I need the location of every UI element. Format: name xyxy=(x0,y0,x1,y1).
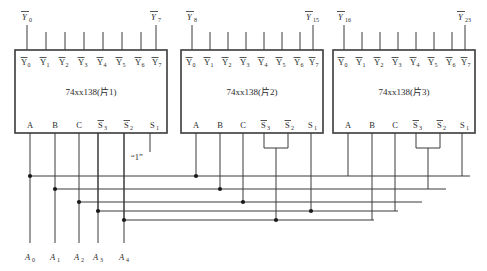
svg-text:3: 3 xyxy=(247,62,250,68)
input-A1-sub: 1 xyxy=(57,257,60,263)
chip3-pin-A: A xyxy=(345,120,352,130)
svg-text:Y: Y xyxy=(446,57,452,67)
svg-text:3: 3 xyxy=(85,62,88,68)
svg-text:5: 5 xyxy=(435,62,438,68)
svg-text:5: 5 xyxy=(123,62,126,68)
input-A0-base: A xyxy=(24,252,31,262)
chip2-pin-C: C xyxy=(240,120,246,130)
chip1-pin-A: A xyxy=(27,120,34,130)
svg-text:4: 4 xyxy=(417,62,420,68)
svg-text:Y: Y xyxy=(410,57,416,67)
svg-text:3: 3 xyxy=(104,125,107,131)
svg-text:Y: Y xyxy=(356,57,362,67)
chip1-top-right-sub: 7 xyxy=(158,17,161,23)
chip3-pin-C: C xyxy=(392,120,398,130)
junction-A2-chip1 xyxy=(77,200,81,204)
svg-text:Y: Y xyxy=(59,57,65,67)
chip3-pin-B: B xyxy=(369,120,375,130)
svg-text:1: 1 xyxy=(47,62,50,68)
svg-text:0: 0 xyxy=(28,62,31,68)
input-label-A1: A1 xyxy=(49,252,60,263)
junction-A2-chip2 xyxy=(241,200,245,204)
svg-text:5: 5 xyxy=(283,62,286,68)
junction-A0-chip2 xyxy=(194,174,198,178)
svg-text:0: 0 xyxy=(345,62,348,68)
svg-text:1: 1 xyxy=(363,62,366,68)
svg-text:2: 2 xyxy=(66,62,69,68)
chip1-pin-C: C xyxy=(76,120,82,130)
chip1-pin-B: B xyxy=(52,120,58,130)
chip3-top-left-text: Y xyxy=(338,12,344,22)
svg-text:2: 2 xyxy=(229,62,232,68)
svg-text:S: S xyxy=(124,120,129,130)
input-A2-sub: 2 xyxy=(81,257,84,263)
junction-A4-chip1 xyxy=(122,218,126,222)
svg-text:Y: Y xyxy=(338,57,344,67)
chip2-top-left-sub: 8 xyxy=(194,17,197,23)
svg-text:Y: Y xyxy=(461,57,467,67)
chip1-top-left-sub: 0 xyxy=(29,17,32,23)
svg-text:S: S xyxy=(261,120,266,130)
svg-text:Y: Y xyxy=(392,57,398,67)
svg-text:3: 3 xyxy=(419,125,422,131)
input-A2-base: A xyxy=(73,252,80,262)
svg-text:4: 4 xyxy=(104,62,107,68)
chip2-top-left-label: Y 8 xyxy=(186,12,197,24)
chip1-top-right-label: Y 7 xyxy=(150,12,161,24)
svg-text:2: 2 xyxy=(291,125,294,131)
svg-text:6: 6 xyxy=(142,62,145,68)
svg-text:S: S xyxy=(98,120,103,130)
svg-text:1: 1 xyxy=(466,125,469,131)
svg-text:Y: Y xyxy=(222,57,228,67)
input-label-A2: A2 xyxy=(73,252,84,263)
svg-text:4: 4 xyxy=(265,62,268,68)
svg-text:S: S xyxy=(150,120,155,130)
svg-text:Y: Y xyxy=(428,57,434,67)
chip3-top-right-text: Y xyxy=(458,12,464,22)
chip2-pin-B: B xyxy=(217,120,223,130)
chip1-top-left-label: Y 0 xyxy=(21,12,32,24)
chip2-top-left-text: Y xyxy=(187,12,193,22)
input-label-A0: A0 xyxy=(24,252,35,263)
svg-text:2: 2 xyxy=(443,125,446,131)
junction-A3-chip2S1 xyxy=(309,209,313,213)
input-stems xyxy=(30,133,124,243)
svg-text:S: S xyxy=(460,120,465,130)
chip3-label: 74xx138(片3) xyxy=(379,86,430,97)
svg-text:Y: Y xyxy=(135,57,141,67)
chip1-top-right-text: Y xyxy=(151,12,157,22)
svg-text:3: 3 xyxy=(267,125,270,131)
svg-text:Y: Y xyxy=(294,57,300,67)
input-A3-sub: 3 xyxy=(100,257,103,263)
svg-text:Y: Y xyxy=(40,57,46,67)
svg-text:S: S xyxy=(437,120,442,130)
chip2-top-right-label: Y 15 xyxy=(305,12,319,24)
address-bus-lines xyxy=(30,176,470,220)
enable-high-label: “1” xyxy=(131,152,143,162)
circuit-diagram: Y 0 Y 7 Y0 Y1 Y2 Y3 Y4 Y5 Y6 Y7 74xx138(… xyxy=(0,0,487,271)
svg-text:Y: Y xyxy=(258,57,264,67)
junction-dots xyxy=(28,174,313,222)
bus-input-labels: A0 A1 A2 A3 A4 xyxy=(24,252,129,263)
chip3-S-bracket xyxy=(416,133,440,148)
input-label-A4: A4 xyxy=(118,252,129,263)
svg-text:Y: Y xyxy=(240,57,246,67)
svg-text:7: 7 xyxy=(316,62,319,68)
svg-text:7: 7 xyxy=(468,62,471,68)
svg-text:S: S xyxy=(413,120,418,130)
svg-text:0: 0 xyxy=(193,62,196,68)
chip2-top-right-sub: 15 xyxy=(313,17,319,23)
svg-text:Y: Y xyxy=(374,57,380,67)
svg-text:7: 7 xyxy=(159,62,162,68)
chip2-top-right-text: Y xyxy=(306,12,312,22)
svg-text:2: 2 xyxy=(381,62,384,68)
chip3-group: Y 16 Y 23 Y0 Y1 Y2 Y3 Y4 Y5 Y6 Y7 74xx13… xyxy=(333,12,475,134)
svg-text:1: 1 xyxy=(211,62,214,68)
chip3-top-right-label: Y 23 xyxy=(457,12,471,24)
diagram-canvas: Y 0 Y 7 Y0 Y1 Y2 Y3 Y4 Y5 Y6 Y7 74xx138(… xyxy=(0,0,487,271)
svg-text:Y: Y xyxy=(276,57,282,67)
chip2-S-bracket xyxy=(264,133,288,148)
chip2-pin-A: A xyxy=(193,120,200,130)
svg-text:S: S xyxy=(285,120,290,130)
junction-A0-chip1 xyxy=(28,174,32,178)
